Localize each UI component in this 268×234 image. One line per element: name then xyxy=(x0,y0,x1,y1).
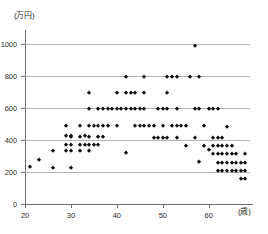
gridline-800 xyxy=(25,76,250,77)
data-point xyxy=(229,144,234,149)
y-tick-mark-1000 xyxy=(21,44,25,45)
data-point xyxy=(142,107,147,112)
y-tick-label-600: 600 xyxy=(5,103,17,112)
data-point xyxy=(78,123,83,128)
data-point xyxy=(174,135,179,140)
data-point xyxy=(234,152,239,157)
x-tick-label-50: 50 xyxy=(159,211,167,220)
data-point xyxy=(174,107,179,112)
data-point xyxy=(243,161,248,166)
x-tick-label-20: 20 xyxy=(21,211,29,220)
x-tick-mark-50 xyxy=(163,204,164,208)
data-point xyxy=(36,158,41,163)
gridline-400 xyxy=(25,140,250,141)
data-point xyxy=(151,123,156,128)
data-point xyxy=(124,107,129,112)
y-tick-mark-800 xyxy=(21,76,25,77)
data-point xyxy=(165,90,170,95)
data-point xyxy=(206,147,211,152)
y-tick-label-200: 200 xyxy=(5,167,17,176)
data-point xyxy=(197,160,202,165)
data-point xyxy=(124,75,129,80)
x-tick-mark-30 xyxy=(71,204,72,208)
data-point xyxy=(27,165,32,170)
data-point xyxy=(87,107,92,112)
x-tick-mark-60 xyxy=(209,204,210,208)
data-point xyxy=(183,123,188,128)
y-tick-label-0: 0 xyxy=(13,200,17,209)
data-point xyxy=(105,123,110,128)
y-tick-label-400: 400 xyxy=(5,135,17,144)
data-point xyxy=(170,75,175,80)
data-point xyxy=(87,149,92,154)
y-tick-label-1000: 1000 xyxy=(1,39,17,48)
x-tick-label-30: 30 xyxy=(67,211,75,220)
data-point xyxy=(124,150,129,155)
data-point xyxy=(160,123,165,128)
y-tick-mark-400 xyxy=(21,140,25,141)
x-tick-label-60: 60 xyxy=(205,211,213,220)
y-tick-label-800: 800 xyxy=(5,71,17,80)
data-point xyxy=(142,90,147,95)
data-point xyxy=(174,75,179,80)
data-point xyxy=(64,123,69,128)
x-tick-label-40: 40 xyxy=(113,211,121,220)
data-point xyxy=(188,75,193,80)
data-point xyxy=(183,144,188,149)
data-point xyxy=(225,144,230,149)
data-point xyxy=(225,125,230,130)
x-tick-mark-40 xyxy=(117,204,118,208)
data-point xyxy=(243,152,248,157)
data-point xyxy=(87,90,92,95)
y-tick-mark-200 xyxy=(21,172,25,173)
data-point xyxy=(50,149,55,154)
data-point xyxy=(202,123,207,128)
data-point xyxy=(215,107,220,112)
x-axis-unit-label: (歳) xyxy=(238,205,251,216)
data-point xyxy=(142,75,147,80)
gridline-1000 xyxy=(25,44,250,45)
data-point xyxy=(192,44,197,49)
scatter-chart: (万円) (歳) 020040060080010002030405060 xyxy=(0,0,268,234)
data-point xyxy=(225,152,230,157)
data-point xyxy=(69,166,74,171)
data-point xyxy=(69,142,74,147)
data-point xyxy=(197,107,202,112)
data-point xyxy=(243,177,248,182)
y-axis-unit-label: (万円) xyxy=(14,9,35,20)
data-point xyxy=(50,166,55,171)
data-point xyxy=(101,107,106,112)
x-axis-line xyxy=(25,204,253,205)
data-point xyxy=(133,90,138,95)
x-tick-mark-20 xyxy=(25,204,26,208)
data-point xyxy=(78,149,83,154)
data-point xyxy=(87,134,92,139)
plot-area xyxy=(25,31,250,204)
data-point xyxy=(165,107,170,112)
data-point xyxy=(69,149,74,154)
data-point xyxy=(114,90,119,95)
y-tick-mark-600 xyxy=(21,108,25,109)
data-point xyxy=(202,144,207,149)
data-point xyxy=(96,142,101,147)
data-point xyxy=(101,134,106,139)
data-point xyxy=(114,123,119,128)
data-point xyxy=(225,161,230,166)
